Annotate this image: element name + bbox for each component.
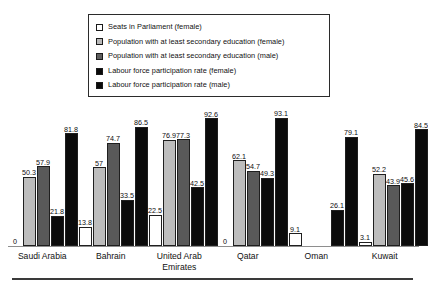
bar[interactable]: 74.7 bbox=[107, 143, 120, 246]
bar-slot: 76.9 bbox=[163, 100, 176, 246]
bar-groups: 050.357.921.881.813.85774.733.586.522.57… bbox=[8, 100, 419, 246]
bar-slot: 62.1 bbox=[233, 100, 246, 246]
bar-value-label: 45.6 bbox=[400, 176, 414, 184]
bottom-divider bbox=[12, 278, 413, 280]
bar[interactable]: 33.5 bbox=[121, 200, 134, 246]
bar-slot: 22.5 bbox=[149, 100, 162, 246]
bar-slot: 57 bbox=[93, 100, 106, 246]
bar-slot: 3.1 bbox=[359, 100, 372, 246]
bar-value-label: 86.5 bbox=[134, 119, 148, 127]
bar[interactable]: 49.3 bbox=[261, 178, 274, 246]
bar[interactable]: 54.7 bbox=[247, 171, 260, 246]
bar-group: 9.126.179.1 bbox=[288, 100, 358, 246]
bar[interactable]: 93.1 bbox=[275, 118, 288, 246]
bar-slot: 57.9 bbox=[37, 100, 50, 246]
bar-slot: 92.6 bbox=[205, 100, 218, 246]
bar-slot: 52.2 bbox=[373, 100, 386, 246]
bar-value-label: 49.3 bbox=[260, 170, 274, 178]
bar-value-label: 50.3 bbox=[22, 169, 36, 177]
bar-value-label: 57 bbox=[95, 160, 103, 168]
bar-value-label: 76.9 bbox=[162, 132, 176, 140]
legend-item-secondary-education-male: Population with at least secondary educa… bbox=[96, 49, 323, 64]
bar-value-label: 74.7 bbox=[106, 135, 120, 143]
legend-label: Labour force participation rate (male) bbox=[108, 78, 230, 93]
bar[interactable]: 52.2 bbox=[373, 174, 386, 246]
bar[interactable]: 77.3 bbox=[177, 139, 190, 246]
bar-value-label: 22.5 bbox=[148, 207, 162, 215]
bar-value-label: 52.2 bbox=[372, 166, 386, 174]
bar-value-label: 54.7 bbox=[246, 163, 260, 171]
bar-value-label: 13.8 bbox=[78, 219, 92, 227]
legend-label: Population with at least secondary educa… bbox=[108, 35, 284, 50]
chart-legend: Seats in Parliament (female) Population … bbox=[88, 14, 330, 97]
legend-label: Labour force participation rate (female) bbox=[108, 64, 236, 79]
bar-slot: 50.3 bbox=[23, 100, 36, 246]
legend-label: Seats in Parliament (female) bbox=[108, 20, 202, 35]
bar[interactable]: 9.1 bbox=[289, 233, 302, 246]
bar[interactable]: 84.5 bbox=[415, 129, 428, 246]
bar-slot: 0 bbox=[9, 100, 22, 246]
bar[interactable]: 21.8 bbox=[51, 216, 64, 246]
bar-group: 062.154.749.393.1 bbox=[218, 100, 288, 246]
bar-slot: 13.8 bbox=[79, 100, 92, 246]
bar-slot: 84.5 bbox=[415, 100, 428, 246]
bar-value-label: 42.5 bbox=[190, 180, 204, 188]
bar-slot: 43.9 bbox=[387, 100, 400, 246]
bar-value-label: 77.3 bbox=[176, 132, 190, 140]
legend-swatch-black-square-icon bbox=[96, 68, 103, 75]
legend-item-labour-force-female: Labour force participation rate (female) bbox=[96, 64, 323, 79]
bar-slot: 9.1 bbox=[289, 100, 302, 246]
bar[interactable]: 22.5 bbox=[149, 215, 162, 246]
bar[interactable]: 92.6 bbox=[205, 118, 218, 246]
x-axis-tick-label: Saudi Arabia bbox=[8, 249, 77, 279]
bar[interactable]: 79.1 bbox=[345, 137, 358, 246]
bar-value-label: 33.5 bbox=[120, 192, 134, 200]
bar[interactable]: 57.9 bbox=[37, 166, 50, 246]
bar-value-label: 0 bbox=[223, 238, 227, 246]
x-axis-tick-label: Oman bbox=[282, 249, 351, 279]
bar-value-label: 93.1 bbox=[274, 110, 288, 118]
bar-group: 22.576.977.342.592.6 bbox=[148, 100, 218, 246]
bar-value-label: 62.1 bbox=[232, 153, 246, 161]
bar-value-label: 79.1 bbox=[344, 129, 358, 137]
bar-group: 050.357.921.881.8 bbox=[8, 100, 78, 246]
bar[interactable]: 26.1 bbox=[331, 210, 344, 246]
bar[interactable]: 76.9 bbox=[163, 140, 176, 246]
legend-swatch-dark-gray-square-icon bbox=[96, 53, 103, 60]
bar-value-label: 92.6 bbox=[204, 111, 218, 119]
legend-swatch-light-gray-square-icon bbox=[96, 38, 103, 45]
bar[interactable]: 45.6 bbox=[401, 183, 414, 246]
bar[interactable]: 86.5 bbox=[135, 127, 148, 246]
bar[interactable]: 81.8 bbox=[65, 133, 78, 246]
legend-swatch-white-square-icon bbox=[96, 24, 103, 31]
bar-slot: 33.5 bbox=[121, 100, 134, 246]
x-axis-tick-label: United Arab Emirates bbox=[145, 249, 214, 279]
bar[interactable]: 50.3 bbox=[23, 177, 36, 246]
bar-slot: 79.1 bbox=[345, 100, 358, 246]
bar-slot: 81.8 bbox=[65, 100, 78, 246]
bar-value-label: 84.5 bbox=[414, 122, 428, 130]
x-axis-baseline bbox=[8, 246, 419, 247]
x-axis-tick-label: Qatar bbox=[214, 249, 283, 279]
legend-item-secondary-education-female: Population with at least secondary educa… bbox=[96, 35, 323, 50]
legend-item-labour-force-male: Labour force participation rate (male) bbox=[96, 78, 323, 93]
bar-group: 3.152.243.945.684.5 bbox=[358, 100, 428, 246]
bar-slot: 42.5 bbox=[191, 100, 204, 246]
bar-value-label: 57.9 bbox=[36, 159, 50, 167]
bar[interactable]: 62.1 bbox=[233, 160, 246, 246]
bar[interactable]: 42.5 bbox=[191, 187, 204, 246]
x-axis-tick-label: Bahrain bbox=[77, 249, 146, 279]
bar-value-label: 21.8 bbox=[50, 208, 64, 216]
bar-slot: 45.6 bbox=[401, 100, 414, 246]
bar-value-label: 3.1 bbox=[360, 234, 370, 242]
legend-label: Population with at least secondary educa… bbox=[108, 49, 278, 64]
legend-swatch-black-square-icon bbox=[96, 82, 103, 89]
bar[interactable]: 43.9 bbox=[387, 185, 400, 246]
bar[interactable]: 57 bbox=[93, 167, 106, 246]
bar-slot: 21.8 bbox=[51, 100, 64, 246]
x-axis-tick-label: Kuwait bbox=[351, 249, 420, 279]
bar[interactable]: 13.8 bbox=[79, 227, 92, 246]
bar-slot bbox=[303, 100, 316, 246]
bar-value-label: 9.1 bbox=[290, 226, 300, 234]
